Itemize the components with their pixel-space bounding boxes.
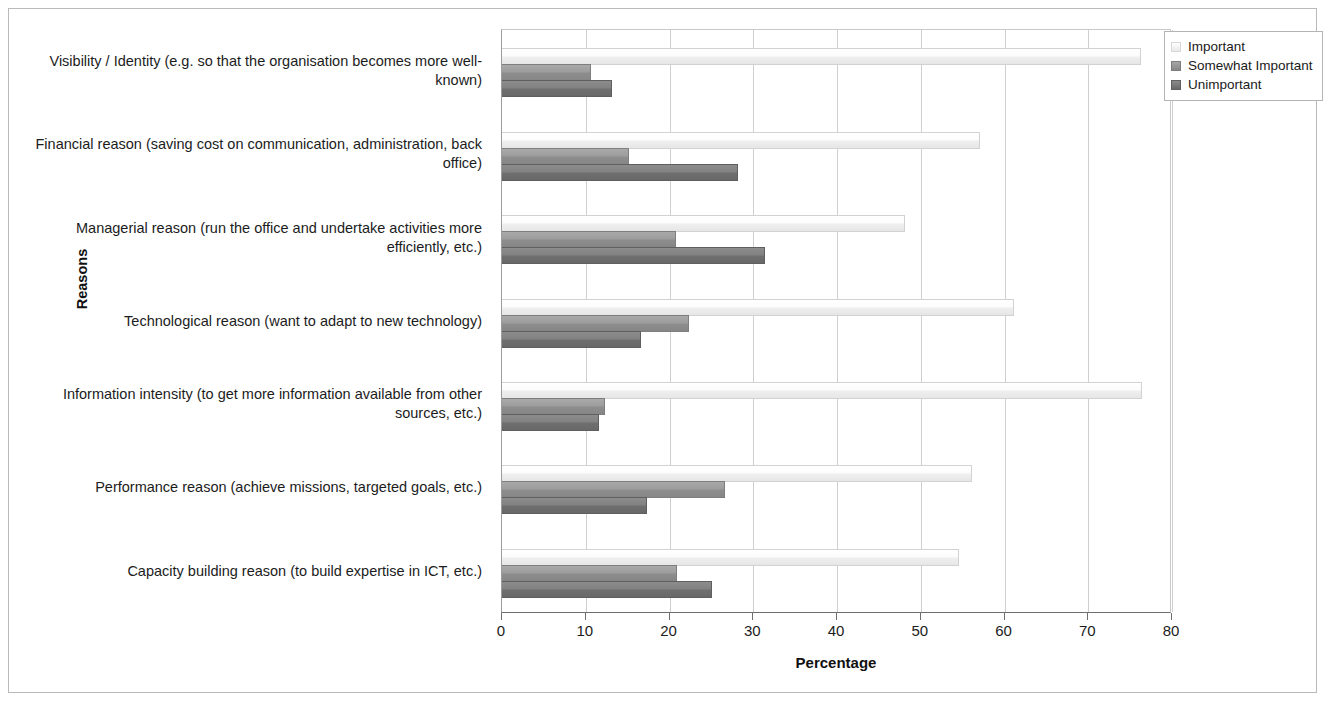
bar-group <box>502 549 1170 596</box>
legend-item: Somewhat Important <box>1171 56 1313 75</box>
bar-important <box>502 549 959 566</box>
legend: ImportantSomewhat ImportantUnimportant <box>1164 31 1323 101</box>
bar-group <box>502 382 1170 429</box>
bar-important <box>502 465 972 482</box>
chart-frame: Reasons Visibility / Identity (e.g. so t… <box>8 8 1317 693</box>
bar-somewhat <box>502 398 605 415</box>
bar-unimportant <box>502 80 612 97</box>
x-tick-label: 10 <box>555 622 615 639</box>
bar-unimportant <box>502 247 765 264</box>
x-tick-label: 50 <box>890 622 950 639</box>
x-tick <box>1171 613 1172 620</box>
x-tick-label: 70 <box>1057 622 1117 639</box>
y-axis-label: Information intensity (to get more infor… <box>27 385 482 423</box>
bar-somewhat <box>502 231 676 248</box>
gridline-80 <box>1172 30 1173 612</box>
bar-group <box>502 48 1170 95</box>
y-axis-label: Technological reason (want to adapt to n… <box>27 312 482 331</box>
bar-somewhat <box>502 148 629 165</box>
x-tick-label: 20 <box>639 622 699 639</box>
bar-somewhat <box>502 481 725 498</box>
legend-item: Unimportant <box>1171 75 1313 94</box>
y-axis-label: Capacity building reason (to build exper… <box>27 562 482 581</box>
x-tick <box>920 613 921 620</box>
legend-label: Important <box>1188 39 1245 54</box>
bar-unimportant <box>502 164 738 181</box>
x-tick-label: 80 <box>1141 622 1201 639</box>
bar-important <box>502 132 980 149</box>
x-axis: 01020304050607080 <box>501 613 1171 653</box>
x-tick-label: 0 <box>471 622 531 639</box>
x-tick <box>752 613 753 620</box>
legend-item: Important <box>1171 37 1313 56</box>
legend-swatch-icon <box>1171 42 1181 52</box>
x-tick-label: 60 <box>974 622 1034 639</box>
legend-label: Unimportant <box>1188 77 1262 92</box>
bar-unimportant <box>502 331 641 348</box>
bar-unimportant <box>502 497 647 514</box>
x-tick <box>1087 613 1088 620</box>
bar-group <box>502 299 1170 346</box>
bar-important <box>502 299 1014 316</box>
y-axis-label: Managerial reason (run the office and un… <box>27 219 482 257</box>
legend-label: Somewhat Important <box>1188 58 1313 73</box>
bar-important <box>502 215 905 232</box>
x-axis-title: Percentage <box>501 654 1171 671</box>
bar-somewhat <box>502 315 689 332</box>
bar-group <box>502 215 1170 262</box>
plot-area <box>501 29 1171 613</box>
legend-swatch-icon <box>1171 80 1181 90</box>
x-tick-label: 40 <box>806 622 866 639</box>
x-tick <box>501 613 502 620</box>
bar-group <box>502 465 1170 512</box>
bar-unimportant <box>502 581 712 598</box>
bar-group <box>502 132 1170 179</box>
bar-important <box>502 382 1142 399</box>
y-axis-label: Performance reason (achieve missions, ta… <box>27 478 482 497</box>
y-axis-label: Visibility / Identity (e.g. so that the … <box>27 52 482 90</box>
x-tick <box>669 613 670 620</box>
legend-swatch-icon <box>1171 61 1181 71</box>
bar-somewhat <box>502 64 591 81</box>
x-tick <box>585 613 586 620</box>
x-tick <box>836 613 837 620</box>
x-tick-label: 30 <box>722 622 782 639</box>
x-tick <box>1004 613 1005 620</box>
bar-unimportant <box>502 414 599 431</box>
bar-somewhat <box>502 565 677 582</box>
y-axis-label: Financial reason (saving cost on communi… <box>27 135 482 173</box>
bar-important <box>502 48 1141 65</box>
